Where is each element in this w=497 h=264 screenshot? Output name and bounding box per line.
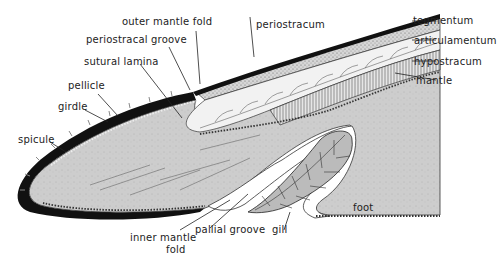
label-tegmentum: tegmentum xyxy=(413,15,473,26)
label-gill: gill xyxy=(272,224,287,235)
label-mantle: mantle xyxy=(416,75,452,86)
label-articulamentum: articulamentum xyxy=(414,35,497,46)
label-periostracum: periostracum xyxy=(256,19,325,30)
label-spicule: spicule xyxy=(18,134,55,145)
label-foot: foot xyxy=(353,202,373,213)
label-periostracal-groove: periostracal groove xyxy=(86,34,187,45)
label-outer-mantle-fold: outer mantle fold xyxy=(122,16,212,27)
label-sutural-lamina: sutural lamina xyxy=(84,56,159,67)
label-inner-mantle-fold: fold xyxy=(166,244,186,255)
label-pellicle: pellicle xyxy=(68,80,105,91)
label-pallial-groove: pallial groove xyxy=(195,224,265,235)
label-inner-mantle: inner mantle xyxy=(130,232,196,243)
label-hypostracum: hypostracum xyxy=(414,56,482,67)
label-girdle: girdle xyxy=(58,101,88,112)
